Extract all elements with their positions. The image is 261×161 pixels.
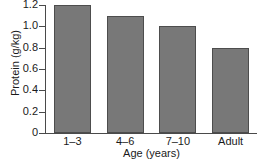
- bar: [54, 5, 91, 133]
- y-axis-tick-mark: [39, 112, 46, 113]
- bar: [107, 16, 144, 133]
- y-axis-tick-mark: [39, 48, 46, 49]
- x-axis-title: Age (years): [46, 147, 257, 159]
- y-axis-tick-mark: [39, 133, 46, 134]
- bar-chart-figure: Protein (g/kg) 00.20.40.60.81.01.2 1–34–…: [0, 0, 261, 161]
- y-axis-tick-label: 0.6: [0, 63, 38, 74]
- plot-area: [46, 5, 257, 133]
- y-axis-tick-label: 0.4: [0, 84, 38, 95]
- y-axis-tick-mark: [39, 90, 46, 91]
- y-axis-tick-label: 0.8: [0, 42, 38, 53]
- y-axis-tick-label: 1.2: [0, 0, 38, 10]
- y-axis-tick-mark: [39, 69, 46, 70]
- y-axis-tick-mark: [39, 5, 46, 6]
- bar: [212, 48, 249, 133]
- x-axis-line: [45, 133, 257, 134]
- bar: [159, 26, 196, 133]
- y-axis-tick-label: 1.0: [0, 20, 38, 31]
- y-axis-tick-labels: 00.20.40.60.81.01.2: [0, 0, 38, 140]
- y-axis-tick-label: 0: [0, 127, 38, 138]
- y-axis-tick-mark: [39, 26, 46, 27]
- y-axis-tick-label: 0.2: [0, 106, 38, 117]
